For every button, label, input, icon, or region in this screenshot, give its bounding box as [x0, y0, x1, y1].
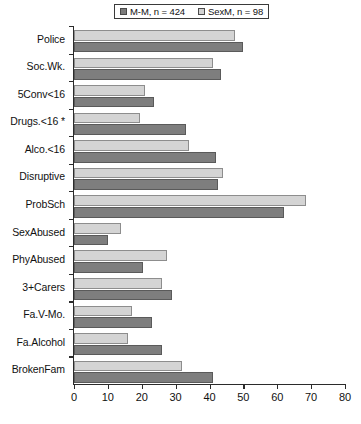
y-tick — [69, 301, 74, 302]
y-tick — [69, 136, 74, 137]
bar-group — [74, 333, 345, 355]
y-axis-label: 5Conv<16 — [18, 89, 65, 100]
x-axis-label: 30 — [170, 391, 182, 403]
legend-label-mm: M-M, n = 424 — [130, 7, 185, 17]
bar-mm — [74, 179, 218, 190]
bar-sexm — [74, 361, 182, 372]
y-axis-label: Soc.Wk. — [27, 61, 65, 72]
x-tick — [345, 385, 346, 389]
y-axis-label: Fa.Alcohol — [16, 337, 65, 348]
x-tick — [243, 385, 244, 389]
x-tick — [142, 385, 143, 389]
bar-sexm — [74, 250, 167, 261]
bar-group — [74, 361, 345, 383]
bar-group — [74, 278, 345, 300]
bar-mm — [74, 345, 162, 356]
x-tick — [210, 385, 211, 389]
bar-mm — [74, 372, 213, 383]
bar-sexm — [74, 85, 145, 96]
y-axis-label: SexAbused — [12, 227, 65, 238]
x-axis-label: 80 — [339, 391, 351, 403]
legend-entry-mm: M-M, n = 424 — [120, 7, 185, 17]
y-axis-label: Disruptive — [19, 171, 65, 182]
y-axis-label: 3+Carers — [22, 282, 65, 293]
y-tick — [69, 356, 74, 357]
bar-mm — [74, 317, 152, 328]
bar-chart: M-M, n = 424 SexM, n = 98 PoliceSoc.Wk.5… — [0, 0, 361, 424]
y-tick — [69, 274, 74, 275]
bar-sexm — [74, 58, 213, 69]
y-tick — [69, 164, 74, 165]
y-axis-label: PhyAbused — [12, 254, 65, 265]
legend-entry-sexm: SexM, n = 98 — [198, 7, 263, 17]
x-tick — [311, 385, 312, 389]
bar-mm — [74, 69, 221, 80]
y-tick — [69, 246, 74, 247]
x-tick — [74, 385, 75, 389]
y-axis-label: Police — [37, 34, 65, 45]
bar-group — [74, 85, 345, 107]
y-tick — [69, 26, 74, 27]
bar-group — [74, 168, 345, 190]
y-tick — [69, 329, 74, 330]
bar-mm — [74, 97, 154, 108]
bar-sexm — [74, 30, 235, 41]
y-tick — [69, 54, 74, 55]
bar-group — [74, 58, 345, 80]
bar-sexm — [74, 306, 132, 317]
x-tick — [176, 385, 177, 389]
legend-swatch-sexm-icon — [198, 8, 205, 15]
y-tick — [69, 191, 74, 192]
y-axis-label: BrokenFam — [12, 364, 65, 375]
bar-mm — [74, 124, 186, 135]
y-tick — [69, 219, 74, 220]
bar-mm — [74, 262, 143, 273]
bar-group — [74, 113, 345, 135]
bar-mm — [74, 42, 243, 53]
bottom-clipped-text — [0, 414, 361, 424]
bar-sexm — [74, 195, 306, 206]
legend-swatch-mm-icon — [120, 8, 127, 15]
y-axis-label: Drugs.<16 * — [10, 116, 65, 127]
bar-sexm — [74, 333, 128, 344]
bar-group — [74, 195, 345, 217]
bar-group — [74, 250, 345, 272]
x-axis-label: 40 — [203, 391, 215, 403]
bar-mm — [74, 235, 108, 246]
y-tick — [69, 81, 74, 82]
bar-sexm — [74, 223, 121, 234]
x-tick — [108, 385, 109, 389]
x-axis-label: 70 — [305, 391, 317, 403]
y-axis-label: Alco.<16 — [25, 144, 65, 155]
x-axis-label: 50 — [237, 391, 249, 403]
y-axis-label: Fa.V-Mo. — [23, 309, 65, 320]
bar-sexm — [74, 113, 140, 124]
chart-legend: M-M, n = 424 SexM, n = 98 — [114, 4, 269, 19]
x-axis-label: 0 — [71, 391, 77, 403]
x-axis-label: 20 — [136, 391, 148, 403]
bar-mm — [74, 290, 172, 301]
y-tick — [69, 109, 74, 110]
x-axis-label: 10 — [102, 391, 114, 403]
bar-mm — [74, 207, 284, 218]
plot-area — [74, 26, 345, 384]
legend-label-sexm: SexM, n = 98 — [208, 7, 263, 17]
bar-group — [74, 140, 345, 162]
bar-sexm — [74, 140, 189, 151]
x-axis-label: 60 — [271, 391, 283, 403]
x-tick — [277, 385, 278, 389]
bar-group — [74, 30, 345, 52]
bar-group — [74, 223, 345, 245]
y-axis-label: ProbSch — [25, 199, 65, 210]
bar-group — [74, 306, 345, 328]
bar-sexm — [74, 168, 223, 179]
bar-mm — [74, 152, 216, 163]
bar-sexm — [74, 278, 162, 289]
